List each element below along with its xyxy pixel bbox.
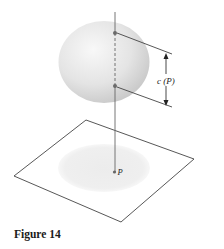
figure-diagram: c (P) P (0, 0, 224, 249)
shadow-disk (58, 144, 150, 192)
figure-caption: Figure 14 (14, 228, 61, 240)
arrowhead-up-icon (164, 53, 169, 59)
sphere (59, 21, 150, 103)
distance-label: c (P) (157, 76, 175, 86)
upper-intersection-point (113, 31, 117, 35)
lower-intersection-point (113, 84, 117, 88)
point-P-label: P (117, 167, 123, 177)
point-P (113, 170, 116, 173)
